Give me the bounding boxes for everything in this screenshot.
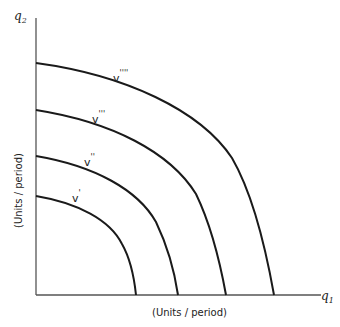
y-axis-symbol: q2 <box>14 9 27 25</box>
curve-v1 <box>36 196 136 295</box>
y-axis-units: (Units / period) <box>13 153 24 228</box>
curve-label-v3: v''' <box>92 110 105 126</box>
x-axis-units: (Units / period) <box>152 307 227 318</box>
curve-v4 <box>36 63 274 295</box>
x-axis-symbol: q1 <box>321 289 334 305</box>
curve-label-v1: v' <box>72 189 81 205</box>
indifference-curves-diagram: v' v'' v''' v'''' q2 q1 (Units / period)… <box>0 0 340 327</box>
curve-label-v2: v'' <box>84 153 95 169</box>
